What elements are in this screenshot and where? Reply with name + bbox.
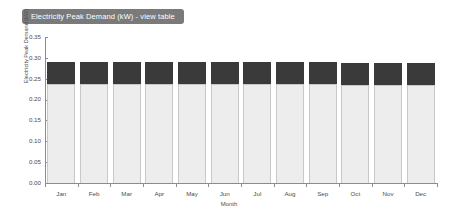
bar-group[interactable] <box>178 62 206 183</box>
x-axis-tick-label: Jul <box>253 190 261 197</box>
chart-title-label: Electricity Peak Demand (kW) - view tabl… <box>31 12 175 21</box>
bar-group[interactable] <box>276 62 304 183</box>
bar-segment-peak[interactable] <box>47 62 75 84</box>
x-axis-tick-mark <box>176 183 177 187</box>
x-axis-tick-mark <box>306 183 307 187</box>
x-axis-tick-label: Mar <box>121 190 132 197</box>
bar-group[interactable] <box>145 62 173 183</box>
bar-segment-base[interactable] <box>407 85 435 183</box>
x-axis-tick-label: Apr <box>155 190 165 197</box>
x-axis-tick-mark <box>110 183 111 187</box>
y-axis-tick-label: 0.35 <box>29 34 45 40</box>
x-axis-tick-mark <box>404 183 405 187</box>
x-axis-tick-label: Dec <box>415 190 426 197</box>
bar-group[interactable] <box>309 62 337 183</box>
x-axis-tick-mark <box>208 183 209 187</box>
y-axis-tick-label: 0.10 <box>29 138 45 144</box>
bar-segment-peak[interactable] <box>276 62 304 84</box>
x-axis-tick-mark <box>274 183 275 187</box>
x-axis-tick-mark <box>45 183 46 187</box>
y-axis-tick-label: 0.15 <box>29 117 45 123</box>
bar-segment-peak[interactable] <box>407 63 435 85</box>
y-axis-tick-label: 0.25 <box>29 76 45 82</box>
bar-segment-peak[interactable] <box>80 62 108 84</box>
y-axis-tick-label: 0.05 <box>29 159 45 165</box>
x-axis-tick-label: Jan <box>56 190 66 197</box>
bar-group[interactable] <box>407 63 435 183</box>
bar-group[interactable] <box>341 63 369 183</box>
x-axis-tick-label: Nov <box>382 190 393 197</box>
bar-segment-peak[interactable] <box>145 62 173 84</box>
bar-segment-base[interactable] <box>80 84 108 183</box>
bar-segment-peak[interactable] <box>374 63 402 85</box>
x-axis-tick-label: May <box>186 190 198 197</box>
y-axis-tick-label: 0.30 <box>29 55 45 61</box>
bar-group[interactable] <box>80 62 108 183</box>
bar-segment-peak[interactable] <box>341 63 369 85</box>
chart-title-badge[interactable]: Electricity Peak Demand (kW) - view tabl… <box>22 9 184 24</box>
x-axis-tick-mark <box>372 183 373 187</box>
bar-group[interactable] <box>47 62 75 183</box>
x-axis-title: Month <box>0 201 458 207</box>
bar-group[interactable] <box>374 63 402 183</box>
y-axis-tick-label: 0.00 <box>29 180 45 186</box>
bar-segment-base[interactable] <box>341 85 369 183</box>
x-axis-tick-label: Aug <box>284 190 295 197</box>
bar-segment-peak[interactable] <box>309 62 337 84</box>
bar-segment-base[interactable] <box>47 84 75 183</box>
y-axis-tick-label: 0.20 <box>29 96 45 102</box>
bar-segment-peak[interactable] <box>113 62 141 84</box>
bar-segment-base[interactable] <box>309 84 337 183</box>
x-axis-tick-mark <box>143 183 144 187</box>
bar-segment-peak[interactable] <box>243 62 271 84</box>
bar-segment-base[interactable] <box>178 84 206 183</box>
bar-group[interactable] <box>113 62 141 183</box>
x-axis-tick-label: Jun <box>220 190 230 197</box>
bar-segment-base[interactable] <box>243 84 271 183</box>
bar-group[interactable] <box>243 62 271 183</box>
x-axis-tick-mark <box>437 183 438 187</box>
bar-segment-base[interactable] <box>211 84 239 183</box>
x-axis-tick-mark <box>78 183 79 187</box>
x-axis-tick-mark <box>339 183 340 187</box>
x-axis-tick-label: Feb <box>89 190 100 197</box>
chart-container: Electricity Peak Demand (kW) - view tabl… <box>0 0 458 219</box>
x-axis-tick-mark <box>241 183 242 187</box>
bar-segment-base[interactable] <box>276 84 304 183</box>
plot-area <box>45 37 437 183</box>
bar-segment-peak[interactable] <box>178 62 206 84</box>
x-axis-tick-label: Oct <box>351 190 361 197</box>
bar-segment-base[interactable] <box>374 85 402 183</box>
bar-group[interactable] <box>211 62 239 183</box>
x-axis-tick-label: Sep <box>317 190 328 197</box>
bar-segment-base[interactable] <box>145 84 173 183</box>
bar-segment-base[interactable] <box>113 84 141 183</box>
bar-segment-peak[interactable] <box>211 62 239 84</box>
